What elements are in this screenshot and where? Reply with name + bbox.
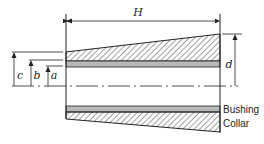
collar-top-section	[66, 34, 220, 61]
collar-label: Collar	[223, 118, 250, 129]
bushing-top-band	[66, 61, 220, 67]
bushing-label: Bushing	[223, 104, 259, 115]
collar-bottom-section	[66, 112, 220, 132]
b-dimension-label: b	[33, 69, 40, 82]
h-dimension-label: H	[132, 6, 143, 19]
bushing-bottom-band	[66, 106, 220, 112]
bushing-collar-diagram: H d c b a Bushing Collar	[0, 0, 264, 144]
c-dimension-label: c	[17, 69, 23, 82]
d-dimension-label: d	[225, 58, 232, 71]
a-dimension-label: a	[51, 69, 58, 82]
